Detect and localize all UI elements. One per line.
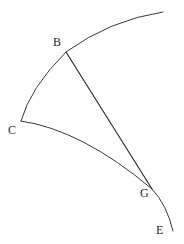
arc-lower-through-g-to-e: [21, 121, 173, 231]
vertex-label-g: G: [140, 187, 149, 199]
vertex-label-c: C: [8, 124, 16, 136]
segment-b-to-g: [66, 52, 152, 189]
vertex-label-b: B: [53, 36, 61, 48]
geometry-canvas: [0, 0, 184, 244]
arc-upper-through-b: [21, 12, 163, 121]
vertex-label-e: E: [156, 224, 163, 236]
geometry-figure: B C G E: [0, 0, 184, 244]
